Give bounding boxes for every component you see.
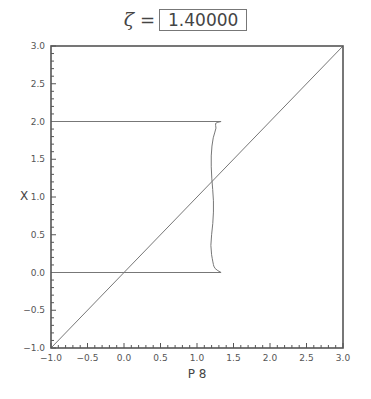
x-axis-label: P 8 xyxy=(188,367,207,381)
plot-area: −1.0−0.50.00.51.01.52.02.53.0−1.0−0.50.0… xyxy=(0,0,371,399)
x-tick-label: 0.5 xyxy=(153,353,167,363)
y-tick-label: 2.0 xyxy=(31,117,46,127)
y-tick-label: 0.0 xyxy=(31,268,46,278)
data-series xyxy=(51,46,343,348)
x-tick-label: 1.0 xyxy=(190,353,205,363)
x-tick-label: 2.5 xyxy=(299,353,313,363)
x-tick-label: 2.0 xyxy=(263,353,278,363)
y-tick-label: 1.0 xyxy=(31,192,46,202)
y-tick-label: 0.5 xyxy=(31,230,45,240)
y-tick-label: −1.0 xyxy=(23,343,45,353)
x-tick-label: −1.0 xyxy=(40,353,62,363)
y-axis-label: X xyxy=(20,189,28,203)
y-tick-label: 2.5 xyxy=(31,79,45,89)
x-tick-label: −0.5 xyxy=(77,353,99,363)
y-tick-label: 3.0 xyxy=(31,41,46,51)
y-tick-label: −0.5 xyxy=(23,305,45,315)
series-curve xyxy=(211,122,221,273)
x-tick-label: 0.0 xyxy=(117,353,132,363)
y-tick-label: 1.5 xyxy=(31,154,45,164)
series-diagonal xyxy=(51,46,343,348)
x-tick-label: 1.5 xyxy=(226,353,240,363)
x-tick-label: 3.0 xyxy=(336,353,351,363)
